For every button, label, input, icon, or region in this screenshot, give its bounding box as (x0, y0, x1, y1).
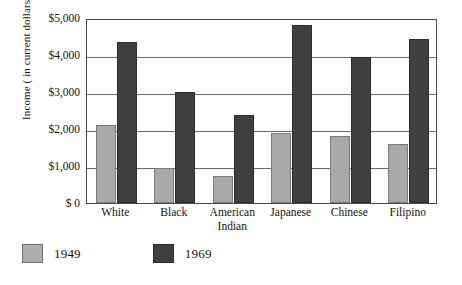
bar-black-1949 (154, 168, 174, 203)
x-tick-label: White (86, 206, 145, 220)
bar-filipino-1969 (409, 39, 429, 203)
bar-chart-figure: Income ( in current dollars) $5,000$4,00… (0, 0, 462, 285)
y-axis-tick-labels: $5,000$4,000$3,000$2,000$1,000$ 0 (0, 0, 84, 285)
bar-chinese-1949 (330, 136, 350, 203)
bar-american-indian-1969 (234, 115, 254, 203)
gridline (87, 131, 436, 132)
bar-white-1969 (117, 42, 137, 203)
light-gray-swatch-icon (22, 244, 43, 263)
gridline (87, 168, 436, 169)
legend-item-1949: 1949 (22, 244, 81, 263)
bar-japanese-1949 (271, 133, 291, 203)
plot-area (86, 19, 437, 204)
x-tick-label: Chinese (320, 206, 379, 220)
y-tick-label: $3,000 (48, 87, 80, 98)
cut-off-caption-strip (150, 280, 440, 285)
bar-chinese-1969 (351, 57, 371, 203)
y-tick-label: $ 0 (66, 198, 80, 209)
x-tick-label: Japanese (262, 206, 321, 220)
legend-label-1969: 1969 (185, 246, 212, 262)
bar-black-1969 (175, 92, 195, 203)
y-tick-label: $5,000 (48, 13, 80, 24)
x-tick-label: AmericanIndian (203, 206, 262, 233)
x-tick-label: Filipino (379, 206, 438, 220)
gridline (87, 94, 436, 95)
dark-gray-swatch-icon (153, 244, 174, 263)
y-tick-label: $4,000 (48, 50, 80, 61)
bar-white-1949 (96, 125, 116, 203)
x-tick-label: Black (145, 206, 204, 220)
x-axis-tick-labels: WhiteBlackAmericanIndianJapaneseChineseF… (86, 206, 437, 240)
legend-label-1949: 1949 (54, 246, 81, 262)
chart-legend: 1949 1969 (22, 244, 212, 263)
legend-item-1969: 1969 (153, 244, 212, 263)
gridline (87, 57, 436, 58)
bar-japanese-1969 (292, 25, 312, 203)
bar-american-indian-1949 (213, 176, 233, 203)
bar-filipino-1949 (388, 144, 408, 203)
y-tick-label: $1,000 (48, 161, 80, 172)
y-tick-label: $2,000 (48, 124, 80, 135)
